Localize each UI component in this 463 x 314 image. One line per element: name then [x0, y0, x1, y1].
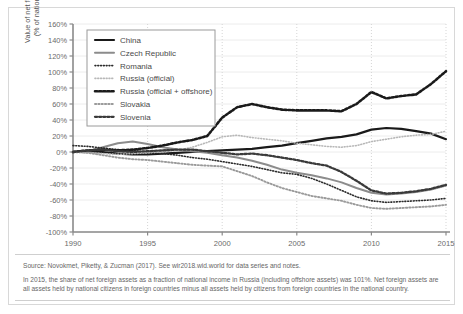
series-line [73, 150, 446, 194]
line-chart: 160%140%120%100%80%60%40%20%0%-20%-40%-6… [9, 8, 456, 256]
y-axis-tick-label: -80% [50, 212, 68, 221]
x-axis-tick-label: 2010 [363, 239, 380, 248]
legend-label: Slovenia [120, 113, 151, 122]
legend-label: China [120, 36, 141, 45]
legend-label: Slovakia [120, 100, 151, 109]
source-text: Source: Novokmet, Piketty, & Zucman (201… [9, 255, 456, 270]
y-axis-tick-label: 40% [52, 116, 67, 125]
legend-label: Russia (official) [120, 74, 175, 83]
figure-container: Value of net foreign assets (% of nation… [8, 7, 455, 305]
y-axis-tick-label: 0% [56, 148, 67, 157]
x-axis-tick-label: 2005 [288, 239, 305, 248]
y-axis-tick-label: -20% [50, 164, 68, 173]
x-axis-tick-label: 2015 [438, 239, 455, 248]
chart-plot-area: 160%140%120%100%80%60%40%20%0%-20%-40%-6… [9, 8, 456, 256]
x-axis-tick-label: 1995 [139, 239, 156, 248]
legend-label: Czech Republic [120, 49, 176, 58]
y-axis-tick-label: 80% [52, 84, 67, 93]
y-axis-tick-label: 60% [52, 100, 67, 109]
note-text: In 2015, the share of net foreign assets… [9, 270, 456, 293]
x-axis-tick-label: 1990 [65, 239, 82, 248]
legend-label: Russia (official + offshore) [120, 87, 213, 96]
y-axis-tick-label: 120% [48, 52, 67, 61]
x-axis-tick-label: 2000 [214, 239, 231, 248]
y-axis-tick-label: 160% [48, 20, 67, 29]
y-axis-tick-label: -100% [46, 228, 68, 237]
notes-divider-bottom [15, 300, 450, 301]
y-axis-tick-label: -60% [50, 196, 68, 205]
legend-label: Romania [120, 62, 153, 71]
y-axis-tick-label: 20% [52, 132, 67, 141]
y-axis-tick-label: -40% [50, 180, 68, 189]
y-axis-tick-label: 140% [48, 36, 67, 45]
y-axis-tick-label: 100% [48, 68, 67, 77]
figure-notes: Source: Novokmet, Piketty, & Zucman (201… [9, 254, 456, 293]
